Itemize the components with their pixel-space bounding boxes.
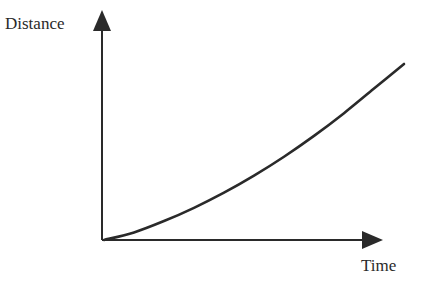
x-axis-label: Time [361,257,396,274]
y-axis-label: Distance [5,15,64,32]
x-axis-arrow-icon [362,231,383,249]
distance-time-graph [0,0,427,285]
y-axis-arrow-icon [93,10,111,31]
distance-curve [104,64,404,240]
